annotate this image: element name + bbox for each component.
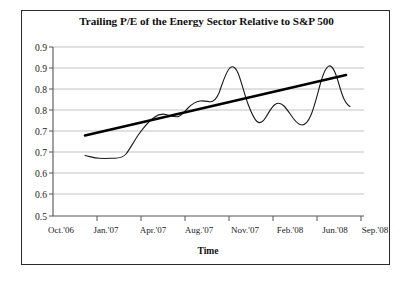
- x-tick-label: Jun.'08: [322, 225, 348, 235]
- y-tick-label: 0.6: [35, 189, 47, 200]
- y-tick-label: 0.8: [35, 105, 47, 116]
- x-tick-label: Feb.'08: [277, 225, 304, 235]
- y-tick-label: 0.7: [35, 126, 47, 137]
- chart-figure: Trailing P/E of the Energy Sector Relati…: [21, 10, 390, 265]
- gridlines: [53, 47, 364, 194]
- x-tick-label: Nov.'07: [231, 225, 259, 235]
- y-tick-label: 0.8: [35, 84, 47, 95]
- data-series-line: [85, 66, 350, 159]
- x-axis-title: Time: [197, 245, 219, 256]
- chart-plot: 0.9 0.9 0.8 0.8 0.7 0.7 0.6 0.6 0.5 Oct.…: [22, 11, 391, 266]
- x-tick-label: Oct.'06: [48, 225, 74, 235]
- trendline: [85, 75, 346, 136]
- y-tick-label: 0.6: [35, 168, 47, 179]
- y-tick-label: 0.9: [35, 63, 47, 74]
- y-tick-label: 0.5: [35, 211, 47, 222]
- x-tick-label: Aug.'07: [185, 225, 214, 235]
- y-tick-label: 0.7: [35, 147, 47, 158]
- y-tick-label: 0.9: [35, 42, 47, 53]
- x-tick-label: Sep.'08: [362, 225, 389, 235]
- x-tick-label: Apr.'07: [140, 225, 167, 235]
- x-tick-marks: [97, 216, 361, 221]
- x-tick-label: Jan.'07: [94, 225, 119, 235]
- y-tick-marks: [49, 47, 53, 216]
